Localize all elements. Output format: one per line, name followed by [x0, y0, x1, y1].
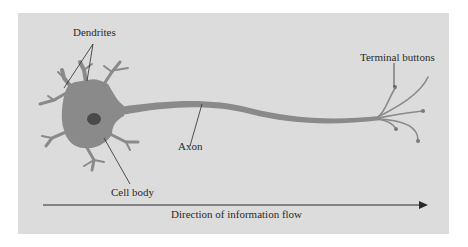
dendrites-label: Dendrites [73, 26, 116, 38]
nucleus-shape [87, 113, 101, 125]
terminal-branches [378, 77, 428, 140]
axon-shape [120, 101, 382, 123]
flow-direction-label: Direction of information flow [171, 208, 302, 220]
axon-label: Axon [178, 140, 202, 152]
cell-body-label: Cell body [111, 186, 154, 198]
terminal-buttons-label: Terminal buttons [360, 51, 435, 63]
flow-arrow-head [419, 201, 428, 209]
